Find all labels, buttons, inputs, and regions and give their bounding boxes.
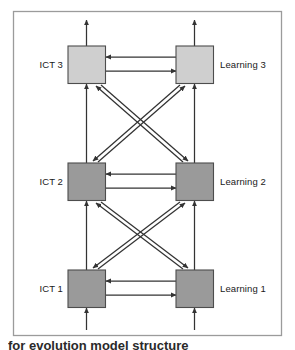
node-label-learning3: Learning 3	[220, 60, 290, 70]
node-learning1[interactable]	[176, 270, 214, 308]
node-learning2[interactable]	[176, 163, 214, 201]
node-label-learning2: Learning 2	[220, 177, 290, 187]
node-label-ict1: ICT 1	[18, 284, 63, 294]
node-label-ict2: ICT 2	[18, 177, 63, 187]
node-label-ict3: ICT 3	[18, 60, 63, 70]
diagram-canvas	[0, 0, 295, 350]
figure-container: ICT 3 Learning 3 ICT 2 Learning 2 ICT 1 …	[0, 0, 295, 350]
node-ict2[interactable]	[68, 163, 106, 201]
figure-caption: for evolution model structure	[8, 339, 295, 350]
node-ict3[interactable]	[68, 46, 106, 84]
node-learning3[interactable]	[176, 46, 214, 84]
node-label-learning1: Learning 1	[220, 284, 290, 294]
node-ict1[interactable]	[68, 270, 106, 308]
